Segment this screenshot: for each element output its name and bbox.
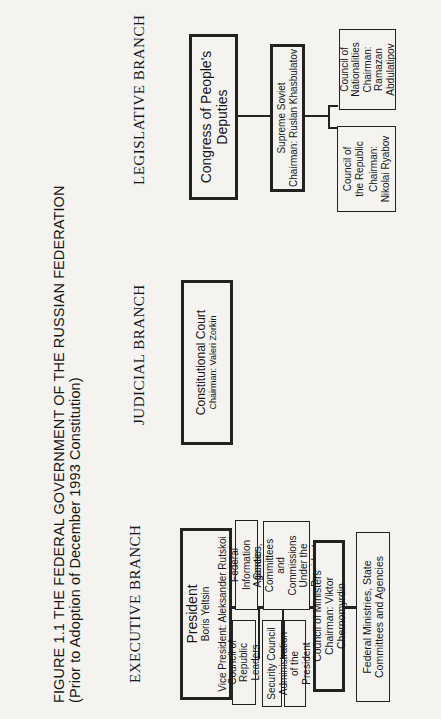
administration-box: Administration of the President bbox=[284, 620, 306, 707]
constitutional-court-box: Constitutional Court Chairman: Valeri Zo… bbox=[181, 280, 233, 445]
executive-heading: EXECUTIVE BRANCH bbox=[127, 525, 144, 683]
connector-council-nationalities bbox=[328, 106, 338, 108]
congress-soviet-line bbox=[236, 115, 270, 117]
council-nationalities-box: Council of Nationalities Chairman: Ramaz… bbox=[339, 29, 396, 110]
agencies-box: Agencies, Committees and Commissions Und… bbox=[263, 521, 310, 610]
council-nationalities-title: Council of Nationalities bbox=[339, 28, 362, 110]
president-box: President Boris Yeltsin Vice President: … bbox=[180, 528, 232, 700]
agencies-label-2: and bbox=[275, 557, 287, 574]
federal-ministries-box: Federal Ministries, State Committees and… bbox=[356, 532, 390, 702]
figure-subtitle: (Prior to Adoption of December 1993 Cons… bbox=[67, 377, 83, 703]
federal-ministries-label: Federal Ministries, State Committees and… bbox=[361, 533, 385, 701]
figure-title: FIGURE 1.1 THE FEDERAL GOVERNMENT OF THE… bbox=[51, 185, 67, 703]
security-council-label: Security Council bbox=[266, 627, 278, 699]
council-nationalities-chair: Chairman: Ramazan Abdulatipov bbox=[362, 30, 397, 109]
supreme-soviet-chair: Chairman: Ruslan Khasbulatov bbox=[288, 49, 300, 187]
council-republic-title: Council of the Republic bbox=[342, 127, 365, 211]
president-title: President bbox=[184, 584, 200, 643]
council-ministers-chair: Chairman: Viktor Chernomyrdin bbox=[323, 543, 347, 689]
council-ministers-box: Council of Ministers Chairman: Viktor Ch… bbox=[313, 540, 345, 692]
administration-label: Administration of the President bbox=[278, 621, 313, 706]
agencies-label-1: Agencies, Committees bbox=[252, 522, 275, 609]
council-republic-box: Council of the Republic Chairman: Nikola… bbox=[337, 126, 396, 212]
rotated-figure-page: FIGURE 1.1 THE FEDERAL GOVERNMENT OF THE… bbox=[0, 0, 441, 719]
court-title: Constitutional Court bbox=[194, 310, 208, 415]
congress-box: Congress of People's Deputies bbox=[189, 34, 238, 200]
council-ministers-title: Council of Ministers bbox=[311, 570, 323, 662]
council-republic-leaders-label: Council of Republic Leaders bbox=[227, 621, 262, 704]
judicial-heading: JUDICIAL BRANCH bbox=[131, 284, 148, 425]
council-republic-chair: Chairman: Nikolai Ryabov bbox=[368, 127, 391, 211]
president-name: Boris Yeltsin bbox=[200, 587, 212, 641]
supreme-soviet-box: Supreme Soviet Chairman: Ruslan Khasbula… bbox=[270, 44, 305, 192]
councils-split-line bbox=[328, 105, 330, 129]
soviet-councils-line bbox=[305, 115, 329, 117]
court-chair: Chairman: Valeri Zorkin bbox=[208, 316, 220, 410]
legislative-heading: LEGISLATIVE BRANCH bbox=[131, 15, 148, 185]
congress-label: Congress of People's Deputies bbox=[198, 37, 230, 197]
supreme-soviet-title: Supreme Soviet bbox=[276, 82, 288, 153]
council-republic-leaders-box: Council of Republic Leaders bbox=[232, 620, 256, 705]
